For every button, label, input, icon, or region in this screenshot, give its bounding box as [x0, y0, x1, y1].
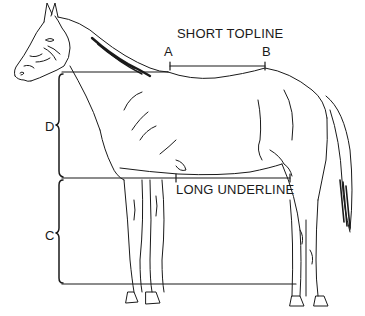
- point-b-label: B: [262, 45, 271, 58]
- guide-lines: [62, 62, 296, 284]
- brace-c: [56, 180, 63, 283]
- horse-line-drawing: [0, 0, 365, 316]
- depth-c-label: C: [45, 229, 55, 242]
- horse-head: [14, 3, 70, 81]
- horse-tail: [326, 96, 352, 232]
- horse-conformation-diagram: SHORT TOPLINE A B D C LONG UNDERLINE: [0, 0, 365, 316]
- brace-d: [56, 74, 63, 177]
- point-a-label: A: [164, 45, 173, 58]
- horse-body: [100, 68, 327, 200]
- topline-label: SHORT TOPLINE: [177, 27, 283, 40]
- underline-label: LONG UNDERLINE: [176, 183, 294, 196]
- front-legs: [124, 180, 164, 304]
- horse-neck: [58, 17, 168, 130]
- depth-d-label: D: [45, 120, 55, 133]
